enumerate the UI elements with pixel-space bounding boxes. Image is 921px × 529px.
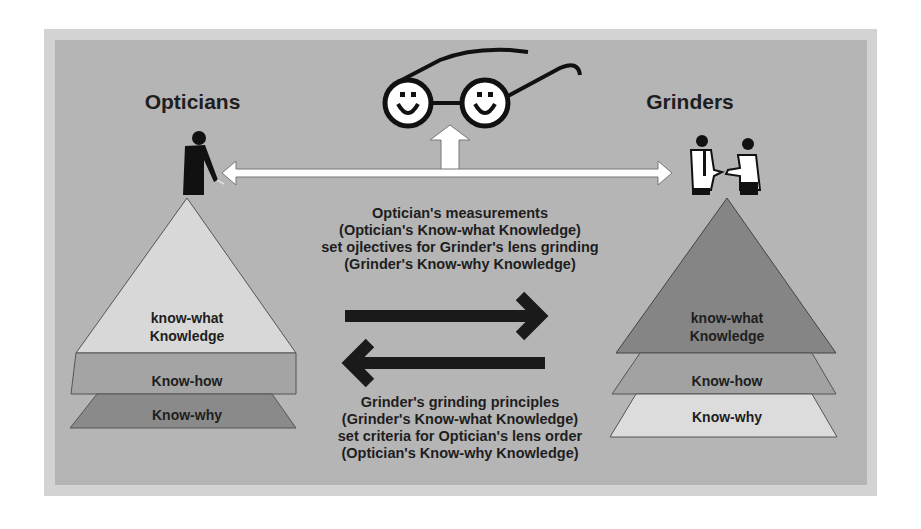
- up-arrow-icon: [430, 125, 470, 172]
- opticians-know-what-label: know-what Knowledge: [127, 309, 247, 345]
- grinders-know-what-line-1: know-what: [667, 309, 787, 327]
- top-caption-line-3: set ojlectives for Grinder's lens grindi…: [290, 239, 630, 256]
- bottom-caption: Grinder's grinding principles (Grinder's…: [290, 394, 630, 462]
- bottom-caption-line-4: (Optician's Know-why Knowledge): [290, 445, 630, 462]
- opticians-know-why-label: Know-why: [127, 406, 247, 424]
- bottom-caption-line-1: Grinder's grinding principles: [290, 394, 630, 411]
- grinders-know-how-label: Know-how: [667, 372, 787, 390]
- left-arrow-icon: [350, 343, 545, 383]
- grinders-know-what-line-2: Knowledge: [667, 327, 787, 345]
- opticians-know-what-line-1: know-what: [127, 309, 247, 327]
- opticians-know-how-label: Know-how: [127, 372, 247, 390]
- grinders-title: Grinders: [640, 90, 740, 114]
- grinders-know-why-label: Know-why: [667, 408, 787, 426]
- smiley-glasses-icon: [385, 50, 580, 126]
- grinders-know-what-label: know-what Knowledge: [667, 309, 787, 345]
- bottom-caption-line-2: (Grinder's Know-what Knowledge): [290, 411, 630, 428]
- top-caption-line-4: (Grinder's Know-why Knowledge): [290, 256, 630, 273]
- handshake-people-icon: [691, 135, 760, 195]
- person-bending-icon: [183, 131, 224, 195]
- top-caption-line-2: (Optician's Know-what Knowledge): [290, 222, 630, 239]
- top-caption-line-1: Optician's measurements: [290, 205, 630, 222]
- top-caption: Optician's measurements (Optician's Know…: [290, 205, 630, 273]
- right-arrow-icon: [345, 296, 540, 336]
- bottom-caption-line-3: set criteria for Optician's lens order: [290, 428, 630, 445]
- opticians-know-what-line-2: Knowledge: [127, 327, 247, 345]
- opticians-title: Opticians: [140, 90, 245, 114]
